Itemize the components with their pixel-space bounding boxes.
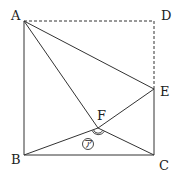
geometry-diagram: ア A D E F B C [0, 0, 181, 178]
label-E: E [160, 84, 170, 99]
angle-arc-inner [94, 130, 103, 133]
segment-AE [24, 21, 154, 89]
segment-FE [98, 89, 154, 128]
segment-AF [24, 21, 98, 128]
label-C: C [159, 158, 169, 173]
label-F: F [97, 108, 106, 123]
label-D: D [161, 8, 171, 23]
segment-FC [98, 128, 154, 155]
label-A: A [10, 8, 21, 23]
label-B: B [11, 152, 21, 167]
angle-label: ア [84, 139, 93, 149]
